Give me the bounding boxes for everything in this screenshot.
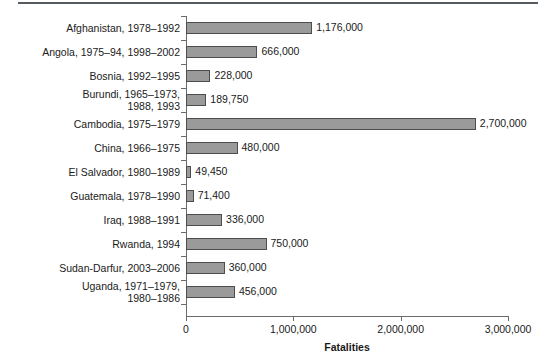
- bar-value-label: 1,176,000: [316, 20, 363, 34]
- x-axis-tick-label: 2,000,000: [341, 323, 461, 336]
- category-label: Rwanda, 1994: [0, 238, 180, 251]
- category-label: Cambodia, 1975–1979: [0, 118, 180, 131]
- bar: [186, 70, 210, 82]
- category-label: El Salvador, 1980–1989: [0, 166, 180, 179]
- x-axis-tick-label: 3,000,000: [448, 323, 545, 336]
- bar-row: 480,000: [186, 136, 545, 160]
- category-label: Afghanistan, 1978–1992: [0, 22, 180, 35]
- category-label: Bosnia, 1992–1995: [0, 70, 180, 83]
- bar-value-label: 750,000: [271, 236, 309, 250]
- bar-row: 1,176,000: [186, 16, 545, 40]
- bar-row: 456,000: [186, 280, 545, 304]
- bar-row: 228,000: [186, 64, 545, 88]
- bar-value-label: 2,700,000: [480, 116, 527, 130]
- bar-value-label: 49,450: [195, 164, 227, 178]
- bar-value-label: 71,400: [198, 188, 230, 202]
- bar: [186, 46, 257, 58]
- bar: [186, 214, 222, 226]
- x-axis-tick-label: 0: [126, 323, 246, 336]
- category-label: Guatemala, 1978–1990: [0, 190, 180, 203]
- fatalities-bar-chart: Fatalities 1,176,000Afghanistan, 1978–19…: [0, 0, 545, 363]
- bar: [186, 118, 476, 130]
- bar: [186, 22, 312, 34]
- bar-row: 360,000: [186, 256, 545, 280]
- bar-row: 336,000: [186, 208, 545, 232]
- bar: [186, 166, 191, 178]
- category-label: Angola, 1975–94, 1998–2002: [0, 46, 180, 59]
- category-label: Uganda, 1971–1979, 1980–1986: [0, 280, 180, 305]
- bar: [186, 94, 206, 106]
- x-axis-tick: [293, 316, 294, 321]
- x-axis-line: [186, 316, 508, 317]
- x-axis-title: Fatalities: [186, 341, 508, 353]
- category-label: Iraq, 1988–1991: [0, 214, 180, 227]
- x-axis-tick-label: 1,000,000: [233, 323, 353, 336]
- bar-row: 2,700,000: [186, 112, 545, 136]
- bar: [186, 190, 194, 202]
- x-axis-tick: [186, 316, 187, 321]
- x-axis-tick: [508, 316, 509, 321]
- bar: [186, 142, 238, 154]
- bar: [186, 238, 267, 250]
- bar-row: 49,450: [186, 160, 545, 184]
- category-label: Burundi, 1965–1973, 1988, 1993: [0, 88, 180, 113]
- bar-value-label: 666,000: [261, 44, 299, 58]
- bar-value-label: 456,000: [239, 284, 277, 298]
- bar: [186, 286, 235, 298]
- bar-value-label: 336,000: [226, 212, 264, 226]
- bar-value-label: 360,000: [229, 260, 267, 274]
- x-axis-tick: [401, 316, 402, 321]
- bar-value-label: 189,750: [210, 92, 248, 106]
- bar-row: 71,400: [186, 184, 545, 208]
- bar-value-label: 228,000: [214, 68, 252, 82]
- bar-row: 750,000: [186, 232, 545, 256]
- bar: [186, 262, 225, 274]
- category-label: Sudan-Darfur, 2003–2006: [0, 262, 180, 275]
- bar-row: 189,750: [186, 88, 545, 112]
- bar-row: 666,000: [186, 40, 545, 64]
- y-axis-tick: [181, 304, 186, 305]
- category-label: China, 1966–1975: [0, 142, 180, 155]
- bar-value-label: 480,000: [242, 140, 280, 154]
